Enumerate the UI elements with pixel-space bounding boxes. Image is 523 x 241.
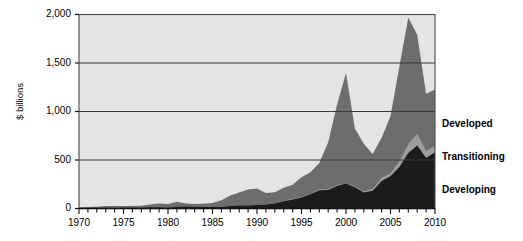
y-axis-tick-label: 1,000: [29, 105, 71, 116]
legend-item-developed: Developed: [442, 118, 493, 129]
x-axis-tick-label: 1970: [57, 217, 101, 228]
y-axis-tick-label: 1,500: [29, 57, 71, 68]
y-axis-tick-label: 500: [29, 154, 71, 165]
x-axis-tick-label: 1990: [235, 217, 279, 228]
y-axis-tick-label: 0: [29, 202, 71, 213]
x-axis-tick-label: 1980: [146, 217, 190, 228]
y-axis-tick-label: 2,000: [29, 8, 71, 19]
x-axis-tick-label: 1995: [280, 217, 324, 228]
x-axis-tick-label: 2005: [369, 217, 413, 228]
x-axis-tick-label: 2010: [413, 217, 457, 228]
legend-item-developing: Developing: [442, 184, 496, 195]
x-axis-tick-label: 1975: [102, 217, 146, 228]
x-axis-tick-label: 2000: [324, 217, 368, 228]
legend-item-transitioning: Transitioning: [442, 151, 505, 162]
chart-figure: $ billions 05001,0001,5002,000 197019751…: [0, 0, 523, 241]
x-axis-tick-label: 1985: [191, 217, 235, 228]
y-axis-label: $ billions: [14, 67, 25, 137]
